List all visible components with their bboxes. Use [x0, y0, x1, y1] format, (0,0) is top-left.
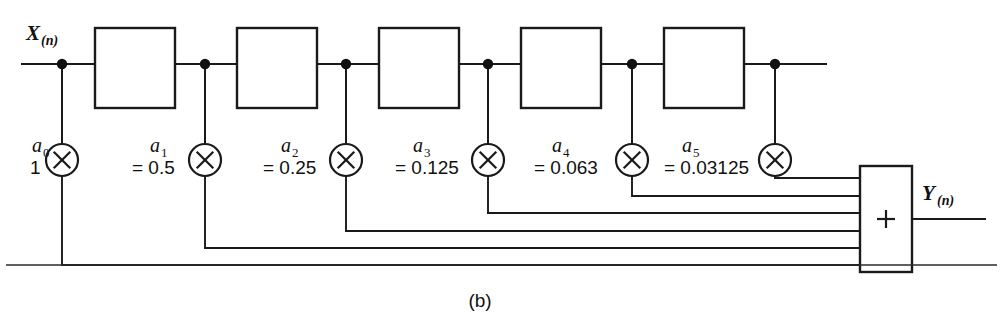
coefficient-value-a5: = 0.03125: [664, 157, 749, 178]
coefficient-symbol-a1: a: [150, 134, 160, 156]
bus-wire-a1: [205, 176, 860, 248]
multiplier-a5: [759, 144, 791, 176]
input-label-subscript: (n): [41, 33, 58, 49]
multiplier-a2: [330, 144, 362, 176]
delay-block-3: [379, 28, 459, 108]
multiplier-a0: [46, 144, 78, 176]
coefficient-label-a5: a5= 0.03125: [664, 134, 749, 178]
fir-filter-block-diagram: a01a1= 0.5a2= 0.25a3= 0.125a4= 0.063a5= …: [0, 0, 1003, 319]
coefficient-subscript-a0: 0: [43, 145, 50, 160]
coefficient-symbol-a4: a: [552, 134, 562, 156]
coefficient-label-a3: a3= 0.125: [395, 134, 459, 178]
coefficient-value-a2: = 0.25: [263, 157, 316, 178]
tap-node-a5: [770, 59, 780, 69]
coefficient-symbol-a3: a: [413, 134, 423, 156]
coefficient-label-a0: a01: [30, 134, 50, 178]
input-label: X: [25, 21, 41, 45]
coefficient-label-a2: a2= 0.25: [263, 134, 316, 178]
coefficient-symbol-a0: a: [32, 134, 42, 156]
coefficient-value-a4: = 0.063: [534, 157, 598, 178]
summing-bus-wires: [62, 176, 860, 265]
tap-node-a0: [57, 59, 67, 69]
output-label-subscript: (n): [937, 193, 954, 209]
summing-block: [860, 166, 912, 272]
delay-block-1: [95, 28, 175, 108]
delay-block-4: [521, 28, 601, 108]
tap-node-a3: [483, 59, 493, 69]
coefficient-symbol-a2: a: [281, 134, 291, 156]
coefficient-value-a3: = 0.125: [395, 157, 459, 178]
tap-node-a2: [341, 59, 351, 69]
delay-block-5: [664, 28, 744, 108]
delay-block-2: [237, 28, 317, 108]
multiplier-a1: [189, 144, 221, 176]
delay-block-row: [95, 28, 744, 108]
figure-root: a01a1= 0.5a2= 0.25a3= 0.125a4= 0.063a5= …: [0, 0, 1003, 319]
coefficient-value-a1: = 0.5: [132, 157, 175, 178]
multiplier-a3: [472, 144, 504, 176]
multiplier-a4: [616, 144, 648, 176]
bus-wire-a3: [488, 176, 860, 213]
output-label: Y: [922, 181, 937, 205]
bus-wire-a4: [632, 176, 860, 196]
tap-node-a1: [200, 59, 210, 69]
figure-caption: (b): [468, 290, 491, 311]
tap-node-a4: [627, 59, 637, 69]
coefficient-label-a4: a4= 0.063: [534, 134, 598, 178]
bus-wire-a0: [62, 176, 860, 265]
coefficient-value-a0: 1: [30, 157, 41, 178]
bus-wire-a2: [346, 176, 860, 231]
coefficient-label-a1: a1= 0.5: [132, 134, 175, 178]
coefficient-symbol-a5: a: [682, 134, 692, 156]
bus-wire-a5: [775, 176, 860, 178]
